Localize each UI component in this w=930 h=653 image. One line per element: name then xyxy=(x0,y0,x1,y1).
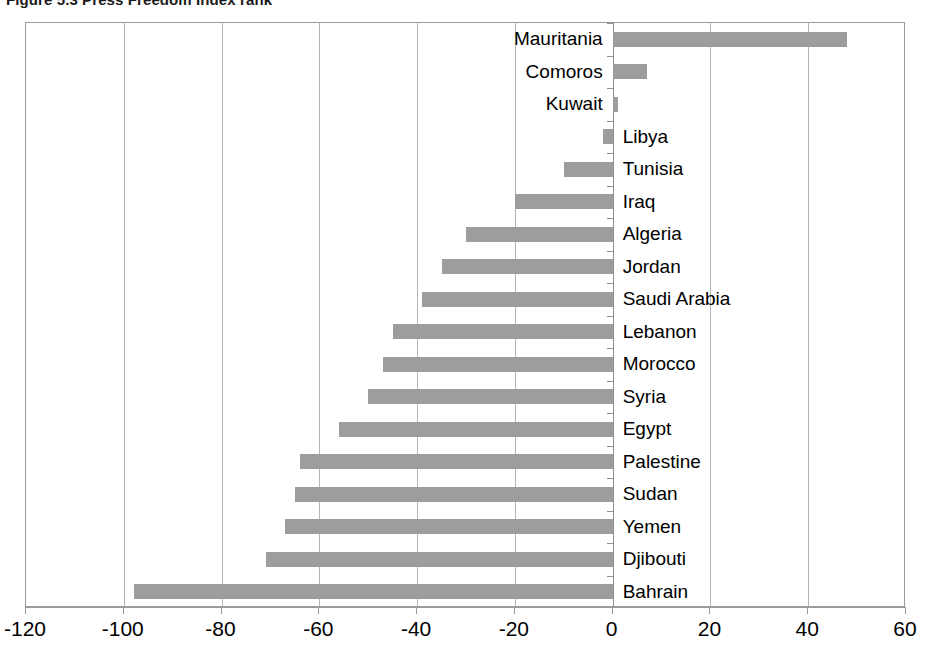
category-tick xyxy=(607,23,613,24)
bar-row: Morocco xyxy=(26,348,904,381)
bar-label-algeria: Algeria xyxy=(623,224,682,243)
bar-label-bahrain: Bahrain xyxy=(623,582,689,601)
x-tick-label--100: -100 xyxy=(102,618,144,639)
chart-plot-area: MauritaniaComorosKuwaitLibyaTunisiaIraqA… xyxy=(25,22,905,607)
x-tick-label--20: -20 xyxy=(499,618,529,639)
bar-label-lebanon: Lebanon xyxy=(623,322,697,341)
x-tick--80 xyxy=(221,607,222,614)
bar-label-saudi-arabia: Saudi Arabia xyxy=(623,289,731,308)
bar-label-palestine: Palestine xyxy=(623,452,701,471)
bar-label-comoros: Comoros xyxy=(526,62,603,81)
bar-yemen xyxy=(285,519,613,534)
bar-label-yemen: Yemen xyxy=(623,517,681,536)
category-tick xyxy=(607,88,613,89)
bar-label-kuwait: Kuwait xyxy=(546,94,603,113)
category-tick xyxy=(607,413,613,414)
category-tick xyxy=(607,186,613,187)
bar-label-libya: Libya xyxy=(623,127,668,146)
bar-sudan xyxy=(295,487,613,502)
bar-row: Syria xyxy=(26,381,904,414)
x-tick--20 xyxy=(514,607,515,614)
bar-mauritania xyxy=(613,32,848,47)
bar-row: Libya xyxy=(26,121,904,154)
bar-label-morocco: Morocco xyxy=(623,354,696,373)
bar-row: Sudan xyxy=(26,478,904,511)
category-tick xyxy=(607,153,613,154)
bar-row: Mauritania xyxy=(26,23,904,56)
bar-label-mauritania: Mauritania xyxy=(514,29,603,48)
bar-label-egypt: Egypt xyxy=(623,419,672,438)
bar-comoros xyxy=(613,64,647,79)
category-tick xyxy=(607,446,613,447)
x-tick-label--80: -80 xyxy=(205,618,235,639)
x-tick--100 xyxy=(123,607,124,614)
x-tick-label--120: -120 xyxy=(4,618,46,639)
bar-row: Jordan xyxy=(26,251,904,284)
bar-morocco xyxy=(383,357,613,372)
category-tick xyxy=(607,218,613,219)
bar-label-jordan: Jordan xyxy=(623,257,681,276)
bar-algeria xyxy=(466,227,613,242)
page-title: Figure 5.3 Press Freedom Index rank xyxy=(6,0,272,8)
category-tick xyxy=(607,478,613,479)
bar-row: Djibouti xyxy=(26,543,904,576)
bar-bahrain xyxy=(134,584,613,599)
bar-label-sudan: Sudan xyxy=(623,484,678,503)
bar-row: Lebanon xyxy=(26,316,904,349)
bar-libya xyxy=(603,129,613,144)
bar-palestine xyxy=(300,454,613,469)
bar-jordan xyxy=(442,259,613,274)
bar-label-tunisia: Tunisia xyxy=(623,159,684,178)
chart-title-text: Figure 5.3 Press Freedom Index rank xyxy=(6,0,272,8)
category-tick xyxy=(607,56,613,57)
bar-row: Comoros xyxy=(26,56,904,89)
x-tick-0 xyxy=(612,607,613,614)
category-tick xyxy=(607,543,613,544)
x-axis-line xyxy=(25,607,905,608)
bar-kuwait xyxy=(613,97,618,112)
bar-label-iraq: Iraq xyxy=(623,192,656,211)
bar-row: Tunisia xyxy=(26,153,904,186)
bar-row: Egypt xyxy=(26,413,904,446)
x-tick-label-60: 60 xyxy=(893,618,916,639)
category-tick xyxy=(607,576,613,577)
category-tick xyxy=(607,251,613,252)
category-tick xyxy=(607,283,613,284)
bar-lebanon xyxy=(393,324,613,339)
bar-series: MauritaniaComorosKuwaitLibyaTunisiaIraqA… xyxy=(26,23,904,606)
x-tick--120 xyxy=(25,607,26,614)
bar-row: Palestine xyxy=(26,446,904,479)
bar-label-djibouti: Djibouti xyxy=(623,549,686,568)
bar-tunisia xyxy=(564,162,613,177)
x-tick-label-20: 20 xyxy=(698,618,721,639)
x-tick-20 xyxy=(709,607,710,614)
bar-label-syria: Syria xyxy=(623,387,666,406)
bar-row: Iraq xyxy=(26,186,904,219)
bar-saudi-arabia xyxy=(422,292,613,307)
bar-syria xyxy=(368,389,612,404)
bar-row: Yemen xyxy=(26,511,904,544)
x-tick-label--60: -60 xyxy=(303,618,333,639)
x-tick-label--40: -40 xyxy=(401,618,431,639)
category-tick xyxy=(607,348,613,349)
bar-row: Bahrain xyxy=(26,576,904,609)
x-tick-40 xyxy=(807,607,808,614)
category-tick xyxy=(607,511,613,512)
bar-egypt xyxy=(339,422,613,437)
x-tick--60 xyxy=(318,607,319,614)
x-tick-label-0: 0 xyxy=(606,618,618,639)
category-tick xyxy=(607,381,613,382)
x-tick-60 xyxy=(905,607,906,614)
bar-row: Kuwait xyxy=(26,88,904,121)
bar-row: Algeria xyxy=(26,218,904,251)
category-tick xyxy=(607,121,613,122)
x-tick-label-40: 40 xyxy=(796,618,819,639)
bar-row: Saudi Arabia xyxy=(26,283,904,316)
x-tick--40 xyxy=(416,607,417,614)
category-tick xyxy=(607,316,613,317)
bar-djibouti xyxy=(266,552,613,567)
bar-iraq xyxy=(515,194,613,209)
